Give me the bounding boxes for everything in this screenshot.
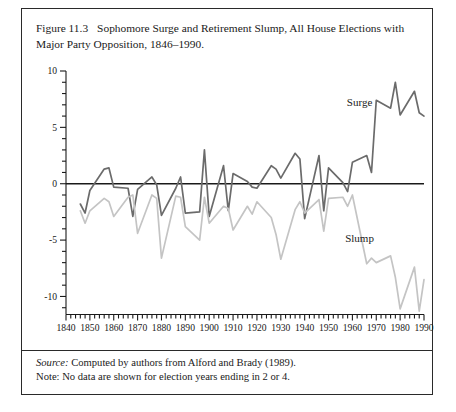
x-tick-label: 1980 (391, 322, 410, 333)
x-tick-label: 1950 (319, 322, 338, 333)
annotation-slump: Slump (345, 232, 374, 244)
series-line-surge (80, 82, 424, 218)
figure-number: Figure 11.3 (36, 22, 88, 34)
data-series-group (80, 82, 424, 311)
note-line: Note: No data are shown for election yea… (36, 370, 421, 384)
chart-plot-area: -10-50510 184018501860187018801890190019… (22, 61, 434, 346)
y-tick-label: -10 (44, 291, 57, 302)
figure-caption: Figure 11.3Sophomore Surge and Retiremen… (36, 21, 421, 52)
y-tick-label: -5 (49, 234, 57, 245)
x-tick-label: 1920 (247, 322, 266, 333)
x-tick-label: 1880 (152, 322, 171, 333)
x-tick-label: 1910 (223, 322, 242, 333)
x-tick-label: 1930 (271, 322, 290, 333)
y-axis: -10-50510 (44, 65, 66, 314)
x-tick-label: 1990 (414, 322, 433, 333)
x-tick-label: 1890 (176, 322, 195, 333)
y-tick-label: 10 (47, 65, 57, 76)
figure-caption-text: Sophomore Surge and Retirement Slump, Al… (36, 22, 404, 50)
figure-footer: Source: Computed by authors from Alford … (36, 356, 421, 384)
annotation-surge: Surge (347, 96, 373, 108)
x-tick-label: 1960 (343, 322, 362, 333)
y-tick-label: 0 (52, 178, 57, 189)
footer-divider (22, 350, 432, 351)
x-tick-label: 1970 (367, 322, 386, 333)
x-tick-label: 1860 (104, 322, 123, 333)
x-tick-label: 1940 (295, 322, 314, 333)
x-tick-label: 1900 (200, 322, 219, 333)
x-tick-label: 1870 (128, 322, 147, 333)
x-tick-label: 1840 (56, 322, 75, 333)
x-tick-label: 1850 (80, 322, 99, 333)
source-line: Source: Computed by authors from Alford … (36, 356, 421, 370)
source-label: Source: (36, 357, 69, 368)
x-axis: 1840185018601870188018901900191019201930… (56, 314, 433, 333)
source-text: Computed by authors from Alford and Brad… (69, 357, 296, 368)
figure-container: Figure 11.3Sophomore Surge and Retiremen… (21, 8, 433, 395)
y-tick-label: 5 (52, 122, 57, 133)
surge-slump-line-chart: -10-50510 184018501860187018801890190019… (22, 61, 434, 346)
